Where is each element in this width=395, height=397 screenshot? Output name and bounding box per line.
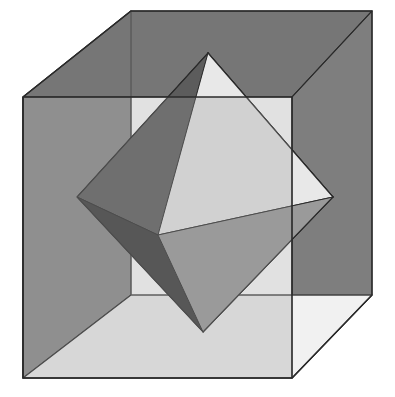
cube-front-face — [23, 97, 292, 378]
figure-canvas — [0, 0, 395, 397]
octahedron-in-cube-svg — [0, 0, 395, 397]
cube-front-face-group — [23, 97, 292, 378]
